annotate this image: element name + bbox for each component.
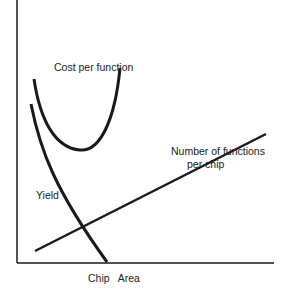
functions-label-line1: Number of functions (171, 146, 265, 157)
yield-curve (31, 104, 107, 262)
cost-per-function-curve (34, 68, 120, 150)
yield-label: Yield (36, 190, 59, 201)
cost-label: Cost per function (54, 62, 133, 73)
x-axis-label: Chip Area (88, 273, 140, 284)
functions-label-line2: per chip (187, 159, 224, 170)
